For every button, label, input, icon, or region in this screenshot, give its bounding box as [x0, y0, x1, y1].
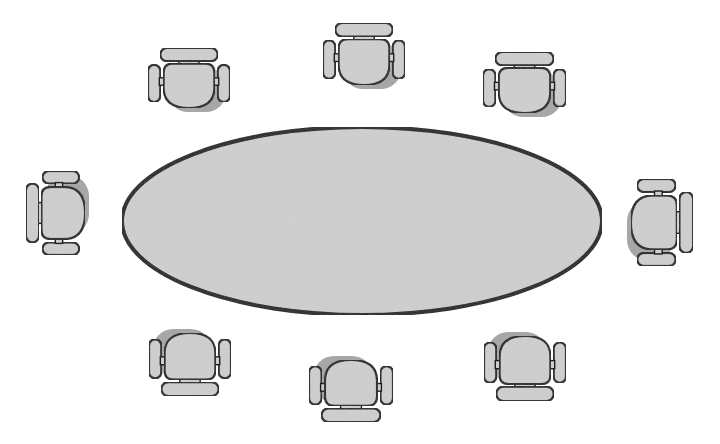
chair-seat — [631, 196, 677, 250]
armrest-right — [554, 69, 566, 107]
seating-diagram — [0, 0, 720, 444]
chair-back — [322, 408, 381, 422]
armrest-left — [219, 339, 231, 378]
armrest-left — [43, 242, 80, 255]
chair-seat — [339, 39, 390, 85]
armrest-right — [218, 65, 230, 102]
chair-seat — [164, 64, 215, 108]
chair-bottom-left — [149, 329, 231, 396]
chair-back — [26, 184, 39, 243]
armrest-left — [483, 69, 495, 107]
chair-bottom-right — [484, 332, 566, 401]
chair-back — [496, 387, 553, 401]
armrest-left — [148, 65, 160, 102]
armrest-right — [43, 171, 80, 184]
armrest-left — [323, 40, 335, 78]
armrest-right — [393, 40, 405, 78]
chair-top-center — [323, 23, 405, 89]
armrest-left — [637, 179, 675, 192]
chair-seat — [499, 68, 550, 113]
chair-seat — [165, 333, 216, 380]
chair-seat — [325, 360, 377, 406]
chair-back — [160, 48, 217, 61]
chair-right — [627, 179, 693, 266]
chair-back — [335, 23, 392, 37]
chair-bottom-center — [309, 356, 393, 422]
chair-back — [495, 52, 553, 65]
armrest-right — [637, 253, 675, 266]
chair-back — [161, 382, 218, 396]
chair-seat — [41, 187, 85, 239]
chair-top-left — [148, 48, 230, 112]
armrest-right — [309, 366, 322, 404]
table-ellipse — [122, 127, 602, 315]
armrest-left — [554, 343, 566, 383]
armrest-right — [484, 343, 496, 383]
chair-back — [679, 192, 693, 253]
chair-top-right — [483, 52, 566, 117]
chair-left — [26, 171, 89, 255]
armrest-left — [380, 366, 393, 404]
conference-table — [122, 127, 602, 315]
chair-seat — [500, 336, 551, 384]
armrest-right — [149, 339, 161, 378]
